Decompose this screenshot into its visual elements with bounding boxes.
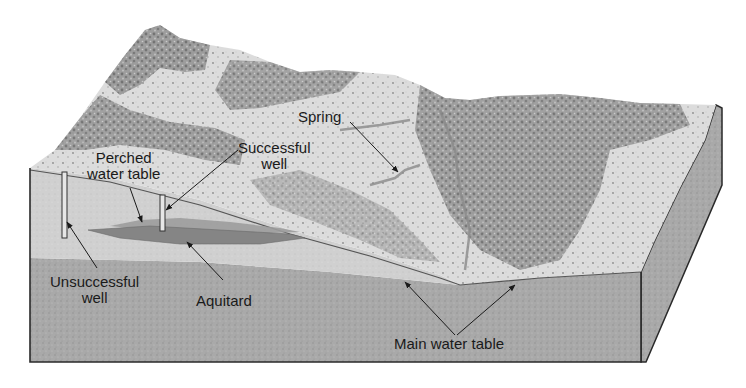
unsuccessful-well (62, 172, 67, 238)
label-unsuccessful-well: Unsuccessful well (50, 274, 139, 306)
groundwater-block-diagram (0, 0, 746, 388)
label-perched-water-table: Perched water table (87, 150, 160, 182)
label-aquitard: Aquitard (196, 293, 252, 309)
label-spring: Spring (298, 109, 341, 125)
label-successful-well: Successful well (238, 140, 311, 172)
label-main-water-table: Main water table (394, 336, 504, 352)
successful-well (160, 195, 165, 231)
